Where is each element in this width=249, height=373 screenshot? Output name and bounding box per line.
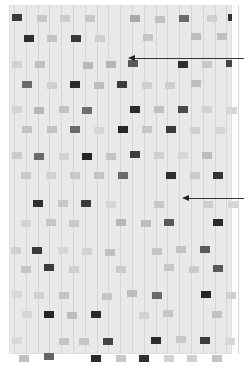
gel-band <box>217 33 227 40</box>
gel-band <box>152 292 162 299</box>
gel-band <box>226 60 232 67</box>
gel-band <box>201 291 211 298</box>
gel-band <box>60 15 70 22</box>
gel-band <box>46 172 56 179</box>
gel-band <box>154 152 164 159</box>
gel-band <box>69 266 79 273</box>
gel-band <box>106 61 116 68</box>
gel-band <box>34 153 44 160</box>
gel-band <box>82 153 92 160</box>
gel-band <box>46 219 56 226</box>
gel-band <box>166 172 176 179</box>
gel-band <box>91 311 101 318</box>
lane-divider <box>120 5 121 354</box>
gel-band <box>130 106 140 113</box>
gel-band <box>105 249 115 256</box>
lane-divider <box>49 5 50 354</box>
gel-band <box>164 219 174 226</box>
gel-band <box>91 355 101 362</box>
gel-band <box>21 220 31 227</box>
gel-band <box>164 355 174 362</box>
gel-band <box>70 81 80 88</box>
gel-band <box>189 266 199 273</box>
gel-band <box>190 127 200 134</box>
gel-band <box>143 34 153 41</box>
gel-band <box>37 15 47 22</box>
gel-band <box>176 336 186 343</box>
gel-band <box>139 312 149 319</box>
gel-band <box>12 152 22 159</box>
gel-band <box>226 292 236 299</box>
gel-band <box>228 14 232 21</box>
gel-band <box>69 220 79 227</box>
gel-band <box>22 311 32 318</box>
gel-band <box>151 337 161 344</box>
gel-band <box>213 265 223 272</box>
lane-divider <box>73 5 74 354</box>
gel-band <box>155 16 165 23</box>
gel-band <box>117 81 127 88</box>
gel-band <box>202 152 212 159</box>
gel-band <box>82 107 92 114</box>
gel-band <box>83 62 93 69</box>
gel-band <box>81 200 91 207</box>
gel-band <box>102 293 112 300</box>
gel-band <box>213 172 223 179</box>
gel-band <box>176 246 186 253</box>
gel-band <box>154 106 164 113</box>
gel-band <box>67 312 77 319</box>
gel-band <box>32 247 42 254</box>
gel-band <box>212 355 222 362</box>
gel-band <box>12 61 22 68</box>
gel-band <box>82 248 92 255</box>
gel-band <box>22 81 32 88</box>
gel-band <box>85 15 95 22</box>
lane-divider <box>14 5 15 354</box>
gel-band <box>130 15 140 22</box>
gel-band <box>178 152 188 159</box>
gel-band <box>94 172 104 179</box>
gel-band <box>191 80 201 87</box>
arrowhead-icon <box>182 195 189 201</box>
gel-band <box>35 61 45 68</box>
gel-band <box>190 172 200 179</box>
gel-band <box>127 290 137 297</box>
gel-band <box>106 153 116 160</box>
gel-band <box>191 33 201 40</box>
gel-band <box>44 264 54 271</box>
gel-band <box>154 201 164 208</box>
gel-band <box>118 126 128 133</box>
gel-band <box>128 60 138 67</box>
gel-band <box>59 106 69 113</box>
gel-band <box>164 264 174 271</box>
gel-band <box>34 292 44 299</box>
gel-band <box>12 14 22 21</box>
gel-band <box>70 126 80 133</box>
gel-band <box>59 292 69 299</box>
gel-band <box>212 311 222 318</box>
gel-band <box>165 82 175 89</box>
gel-band <box>59 153 69 160</box>
gel-band <box>44 311 54 318</box>
gel-band <box>118 172 128 179</box>
gel-band <box>200 337 210 344</box>
gel-band <box>21 266 31 273</box>
gel-band <box>202 106 212 113</box>
gel-band <box>11 247 21 254</box>
gel-band <box>58 200 68 207</box>
gel-band <box>12 106 22 113</box>
gel-band <box>228 201 238 208</box>
gel-band <box>44 353 54 360</box>
gel-band <box>178 61 188 68</box>
gel-band <box>152 248 162 255</box>
gel-band <box>95 35 105 42</box>
gel-band <box>139 355 149 362</box>
gel-band <box>103 338 113 345</box>
gel-band <box>12 291 22 298</box>
gel-band <box>163 310 173 317</box>
lower-arrow <box>188 198 244 199</box>
gel-band <box>179 15 189 22</box>
gel-band <box>94 127 104 134</box>
gel-band <box>106 201 116 208</box>
lane-divider <box>61 5 62 354</box>
